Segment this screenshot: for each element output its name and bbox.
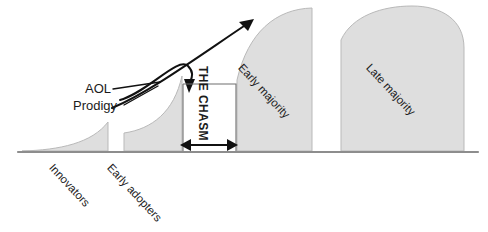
diagram-canvas: AOL Prodigy THE CHASM Innovators Early a… [0, 0, 488, 232]
drop-arrow-head [184, 79, 195, 93]
growth-arrow-head [239, 19, 254, 31]
callout-label-aol: AOL [85, 82, 111, 95]
chasm-label: THE CHASM [197, 66, 209, 141]
callout-label-prodigy: Prodigy [73, 99, 117, 112]
segment-shape-late-majority [341, 6, 464, 151]
segment-shape-innovators [22, 122, 108, 151]
